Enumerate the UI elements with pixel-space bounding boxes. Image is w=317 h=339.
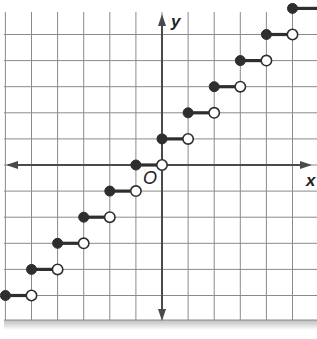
y-axis-label: y	[170, 12, 182, 31]
open-endpoint-icon	[183, 134, 193, 144]
closed-endpoint-icon	[209, 82, 219, 92]
x-axis-arrow-right-icon	[300, 161, 312, 169]
closed-endpoint-icon	[27, 264, 37, 274]
closed-endpoint-icon	[105, 186, 115, 196]
origin-label: O	[143, 168, 157, 188]
open-endpoint-icon	[26, 290, 36, 300]
open-endpoint-icon	[287, 29, 297, 39]
open-endpoint-icon	[157, 160, 167, 170]
x-axis-arrow-left-icon	[6, 161, 18, 169]
endpoints	[0, 3, 297, 300]
open-endpoint-icon	[79, 238, 89, 248]
closed-endpoint-icon	[261, 30, 271, 40]
closed-endpoint-icon	[79, 212, 89, 222]
x-axis-label: x	[305, 171, 317, 190]
y-axis-arrow-down-icon	[158, 309, 166, 321]
y-axis-arrow-up-icon	[158, 14, 166, 26]
closed-endpoint-icon	[0, 291, 10, 301]
open-endpoint-icon	[52, 264, 62, 274]
open-endpoint-icon	[235, 82, 245, 92]
closed-endpoint-icon	[235, 56, 245, 66]
closed-endpoint-icon	[288, 3, 298, 13]
step-function-chart: y x O	[0, 0, 317, 339]
closed-endpoint-icon	[53, 238, 63, 248]
closed-endpoint-icon	[183, 108, 193, 118]
open-endpoint-icon	[105, 212, 115, 222]
open-endpoint-icon	[261, 55, 271, 65]
open-endpoint-icon	[131, 186, 141, 196]
open-endpoint-icon	[209, 108, 219, 118]
frame-shadow	[4, 320, 317, 330]
closed-endpoint-icon	[131, 160, 141, 170]
closed-endpoint-icon	[157, 134, 167, 144]
